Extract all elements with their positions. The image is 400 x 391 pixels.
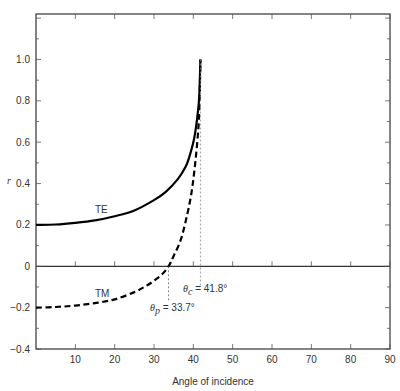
x-tick-label: 40 (188, 354, 200, 365)
x-tick-label: 50 (227, 354, 239, 365)
x-axis-label: Angle of incidence (172, 376, 254, 387)
axis-ticks (36, 14, 390, 349)
x-tick-label: 20 (109, 354, 121, 365)
y-tick-label: −0.4 (10, 344, 30, 355)
y-axis-label: r (7, 175, 11, 186)
x-tick-label: 80 (345, 354, 357, 365)
series-te (36, 59, 200, 224)
y-tick-label: 0.6 (16, 137, 30, 148)
tick-labels: 102030405060708090−0.4−0.200.20.40.60.81… (10, 54, 396, 365)
plot-border (36, 14, 390, 349)
theta-p-annotation: θp = 33.7° (150, 302, 195, 316)
x-tick-label: 10 (70, 354, 82, 365)
data-series (36, 59, 200, 307)
y-tick-label: 0 (24, 261, 30, 272)
plot-frame (36, 14, 390, 349)
tm-label: TM (95, 288, 109, 299)
x-tick-label: 90 (384, 354, 396, 365)
y-tick-label: 0.8 (16, 95, 30, 106)
reflection-coefficient-chart: 102030405060708090−0.4−0.200.20.40.60.81… (0, 0, 400, 391)
x-tick-label: 60 (266, 354, 278, 365)
te-label: TE (95, 204, 108, 215)
annotation-markers (169, 59, 201, 301)
theta-c-annotation: θc = 41.8° (183, 283, 227, 297)
series-tm (36, 59, 200, 307)
y-tick-label: 0.4 (16, 178, 30, 189)
x-tick-label: 70 (306, 354, 318, 365)
y-tick-label: 0.2 (16, 219, 30, 230)
y-tick-label: 1.0 (16, 54, 30, 65)
y-tick-label: −0.2 (10, 302, 30, 313)
x-tick-label: 30 (148, 354, 160, 365)
